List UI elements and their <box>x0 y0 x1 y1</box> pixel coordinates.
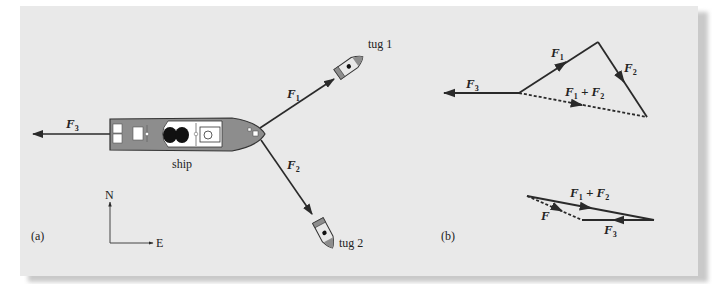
tug-2-icon <box>313 218 338 251</box>
compass-icon <box>110 202 153 243</box>
compass-north-label: N <box>105 188 114 203</box>
resultant-label-sum: F1 + F2 <box>570 185 609 202</box>
tug-1-icon <box>334 52 366 80</box>
polygon-sum-midarrow <box>576 104 582 105</box>
polygon-label-sum: F1 + F2 <box>565 84 604 101</box>
compass-east-label: E <box>156 236 163 251</box>
polygon-label-f1: F1 <box>551 45 564 62</box>
resultant-sum-midarrow <box>585 207 591 208</box>
polygon-label-f2: F2 <box>624 60 637 77</box>
force-f2-arrow <box>261 140 312 214</box>
label-f2: F2 <box>287 157 300 174</box>
resultant-label-f: F <box>541 208 550 224</box>
ship-label: ship <box>172 157 192 172</box>
tug-2-label: tug 2 <box>339 236 363 251</box>
polygon-label-f3: F3 <box>466 76 479 93</box>
panel-b-label: (b) <box>441 229 455 244</box>
panel-a-label: (a) <box>31 229 44 244</box>
label-f3: F3 <box>66 116 79 133</box>
resultant-label-f3: F3 <box>604 222 617 239</box>
label-f1: F1 <box>287 86 300 103</box>
tug-1-label: tug 1 <box>368 37 392 52</box>
ship-icon <box>110 118 265 151</box>
